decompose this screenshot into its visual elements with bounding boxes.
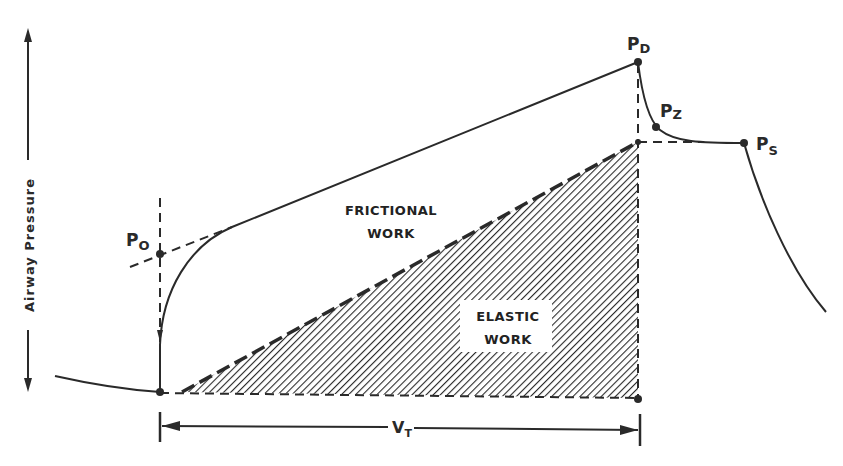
ps-label: PS (756, 134, 778, 158)
arrow-right-icon (620, 425, 638, 435)
end-base-point (634, 395, 642, 403)
elastic-label-line1: ELASTIC (476, 309, 539, 324)
ps-point (740, 139, 748, 147)
arrow-down-icon (24, 378, 32, 392)
pd-point (634, 58, 642, 66)
arrow-left-icon (162, 421, 180, 431)
corner-point (635, 139, 641, 145)
origin-point (156, 388, 164, 396)
airway-pressure-diagram: Airway Pressure PO PD PZ PS FRICTIONAL W… (0, 0, 843, 466)
frictional-label-line1: FRICTIONAL (345, 203, 437, 218)
pz-point (652, 123, 660, 131)
p0-label: PO (126, 230, 150, 253)
elastic-label-line2: WORK (484, 332, 532, 347)
tidal-volume-label: VT (392, 418, 412, 440)
arrow-down-icon (157, 330, 163, 342)
pz-label: PZ (660, 101, 682, 122)
y-axis-label: Airway Pressure (22, 178, 37, 312)
p0-point (156, 250, 164, 258)
pd-label: PD (627, 34, 650, 56)
arrow-up-icon (24, 28, 32, 42)
frictional-label-line2: WORK (367, 226, 415, 241)
